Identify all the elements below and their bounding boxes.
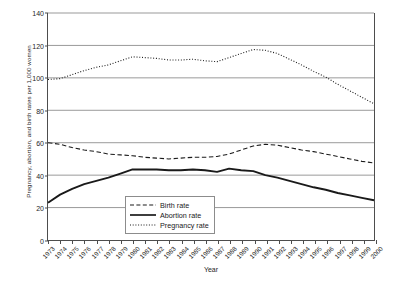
x-axis-tick-mark xyxy=(182,240,183,244)
x-axis-tick-mark xyxy=(267,240,268,244)
x-axis-tick-mark xyxy=(340,240,341,244)
y-axis-tick-mark xyxy=(45,78,49,79)
x-axis-tick-label: 1996 xyxy=(320,245,335,260)
x-axis-tick-mark xyxy=(121,240,122,244)
x-axis-tick-label: 1989 xyxy=(235,245,250,260)
x-axis-tick-label: 1977 xyxy=(90,245,105,260)
series-line-birth-rate xyxy=(48,143,374,163)
x-axis-tick-label: 1997 xyxy=(332,245,347,260)
y-axis-tick-label: 0 xyxy=(40,238,44,245)
x-axis-tick-mark xyxy=(169,240,170,244)
y-axis-title: Pregnancy, abortion, and birth rates per… xyxy=(25,17,32,227)
legend-label-pregnancy-rate: Pregnancy rate xyxy=(160,221,209,230)
x-axis-title: Year xyxy=(47,266,375,273)
chart-container: Pregnancy, abortion, and birth rates per… xyxy=(0,0,405,284)
x-axis-tick-mark xyxy=(364,240,365,244)
legend-label-birth-rate: Birth rate xyxy=(160,201,189,210)
x-axis-tick-label: 1983 xyxy=(162,245,177,260)
y-axis-tick-label: 80 xyxy=(36,107,44,114)
x-axis-tick-label: 1976 xyxy=(77,245,92,260)
y-axis-tick-label: 140 xyxy=(32,10,44,17)
y-axis-tick-label: 20 xyxy=(36,205,44,212)
y-axis-tick-label: 100 xyxy=(32,75,44,82)
x-axis-tick-label: 1991 xyxy=(260,245,275,260)
legend-key-dashed-icon xyxy=(130,201,156,209)
x-axis-tick-mark xyxy=(230,240,231,244)
x-axis-tick-mark xyxy=(303,240,304,244)
x-axis-tick-mark xyxy=(352,240,353,244)
series-line-pregnancy-rate xyxy=(48,49,374,103)
y-axis-tick-mark xyxy=(45,143,49,144)
y-axis-tick-mark xyxy=(45,45,49,46)
x-axis-tick-mark xyxy=(145,240,146,244)
x-axis-tick-label: 1984 xyxy=(175,245,190,260)
y-axis-tick-mark xyxy=(45,110,49,111)
x-axis-tick-label: 1978 xyxy=(102,245,117,260)
legend-label-abortion-rate: Abortion rate xyxy=(160,211,201,220)
y-axis-tick-label: 40 xyxy=(36,172,44,179)
x-axis-tick-mark xyxy=(206,240,207,244)
x-axis-tick-mark xyxy=(84,240,85,244)
x-axis-tick-mark xyxy=(327,240,328,244)
x-axis-tick-mark xyxy=(60,240,61,244)
x-axis-tick-mark xyxy=(48,240,49,244)
x-axis-tick-mark xyxy=(376,240,377,244)
x-axis-tick-mark xyxy=(315,240,316,244)
y-axis-tick-mark xyxy=(45,208,49,209)
x-axis-tick-mark xyxy=(97,240,98,244)
x-axis-tick-mark xyxy=(194,240,195,244)
x-axis-tick-mark xyxy=(72,240,73,244)
x-axis-tick-mark xyxy=(242,240,243,244)
x-axis-tick-mark xyxy=(279,240,280,244)
x-axis-tick-label: 1990 xyxy=(247,245,262,260)
x-axis-tick-mark xyxy=(255,240,256,244)
x-axis-tick-mark xyxy=(157,240,158,244)
x-axis-tick-mark xyxy=(218,240,219,244)
y-axis-tick-label: 120 xyxy=(32,42,44,49)
chart-legend: Birth rate Abortion rate Pregnancy rate xyxy=(125,196,215,234)
x-axis-tick-label: 1998 xyxy=(345,245,360,260)
x-axis-tick-label: 2000 xyxy=(369,245,384,260)
legend-key-dotted-icon xyxy=(130,221,156,229)
x-axis-tick-mark xyxy=(291,240,292,244)
y-axis-tick-mark xyxy=(45,13,49,14)
x-axis-tick-mark xyxy=(109,240,110,244)
legend-item-birth-rate: Birth rate xyxy=(130,200,209,210)
x-axis-tick-mark xyxy=(133,240,134,244)
x-axis-tick-label: 1992 xyxy=(272,245,287,260)
legend-item-abortion-rate: Abortion rate xyxy=(130,210,209,220)
legend-item-pregnancy-rate: Pregnancy rate xyxy=(130,220,209,230)
y-axis-tick-mark xyxy=(45,175,49,176)
x-axis-tick-label: 1985 xyxy=(187,245,202,260)
legend-key-solid-icon xyxy=(130,211,156,219)
y-axis-tick-label: 60 xyxy=(36,140,44,147)
